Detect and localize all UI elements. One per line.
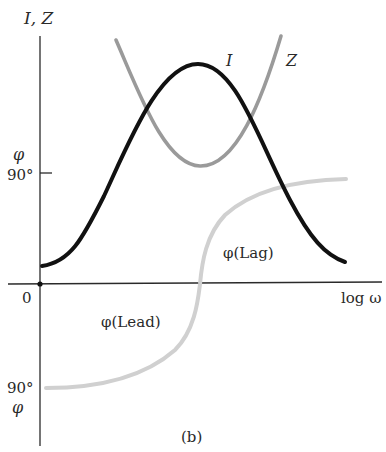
phi-upper-symbol: φ xyxy=(13,145,25,164)
phi-lower-value: 90° xyxy=(7,379,34,397)
phase-lead-label: φ(Lead) xyxy=(101,313,161,331)
phi-lower-symbol: φ xyxy=(12,398,24,417)
current-curve-label: I xyxy=(225,51,233,70)
figure-caption: (b) xyxy=(181,428,202,446)
impedance-curve xyxy=(116,36,281,166)
origin-dot xyxy=(37,281,42,286)
x-axis xyxy=(8,282,382,284)
y-axis-label: I, Z xyxy=(23,8,55,28)
impedance-curve-label: Z xyxy=(285,51,298,70)
phase-lag-label: φ(Lag) xyxy=(223,244,274,262)
phi-upper-value: 90° xyxy=(7,166,34,184)
origin-label: 0 xyxy=(22,289,32,307)
x-axis-label: log ω xyxy=(341,289,381,307)
resonance-diagram: I, Z I Z φ 90° φ(Lag) 0 log ω φ(Lead) 90… xyxy=(0,0,386,452)
